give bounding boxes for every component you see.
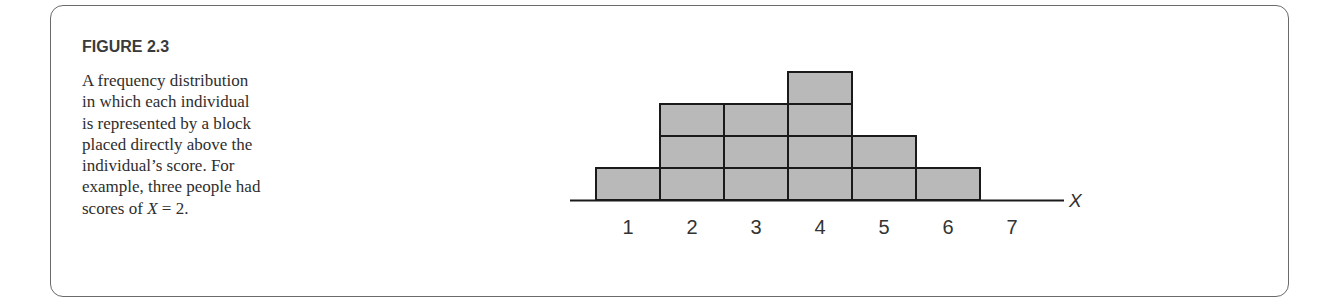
frequency-block bbox=[788, 104, 852, 136]
frequency-block bbox=[852, 136, 916, 168]
frequency-block bbox=[788, 168, 852, 200]
x-tick-label: 5 bbox=[878, 216, 889, 238]
frequency-block bbox=[660, 168, 724, 200]
frequency-block bbox=[788, 136, 852, 168]
frequency-block bbox=[788, 72, 852, 104]
x-tick-label: 1 bbox=[622, 216, 633, 238]
x-tick-labels: 1234567 bbox=[622, 216, 1017, 238]
frequency-block bbox=[724, 136, 788, 168]
x-tick-label: 4 bbox=[814, 216, 825, 238]
blocks-group bbox=[596, 72, 980, 200]
frequency-block bbox=[724, 168, 788, 200]
x-axis-label: X bbox=[1068, 190, 1083, 211]
x-tick-label: 6 bbox=[942, 216, 953, 238]
frequency-block bbox=[916, 168, 980, 200]
x-tick-label: 3 bbox=[750, 216, 761, 238]
frequency-block bbox=[660, 136, 724, 168]
frequency-block bbox=[596, 168, 660, 200]
x-tick-label: 7 bbox=[1006, 216, 1017, 238]
frequency-block bbox=[852, 168, 916, 200]
frequency-block bbox=[724, 104, 788, 136]
x-tick-label: 2 bbox=[686, 216, 697, 238]
block-chart: 1234567 X bbox=[0, 0, 1329, 302]
frequency-block bbox=[660, 104, 724, 136]
